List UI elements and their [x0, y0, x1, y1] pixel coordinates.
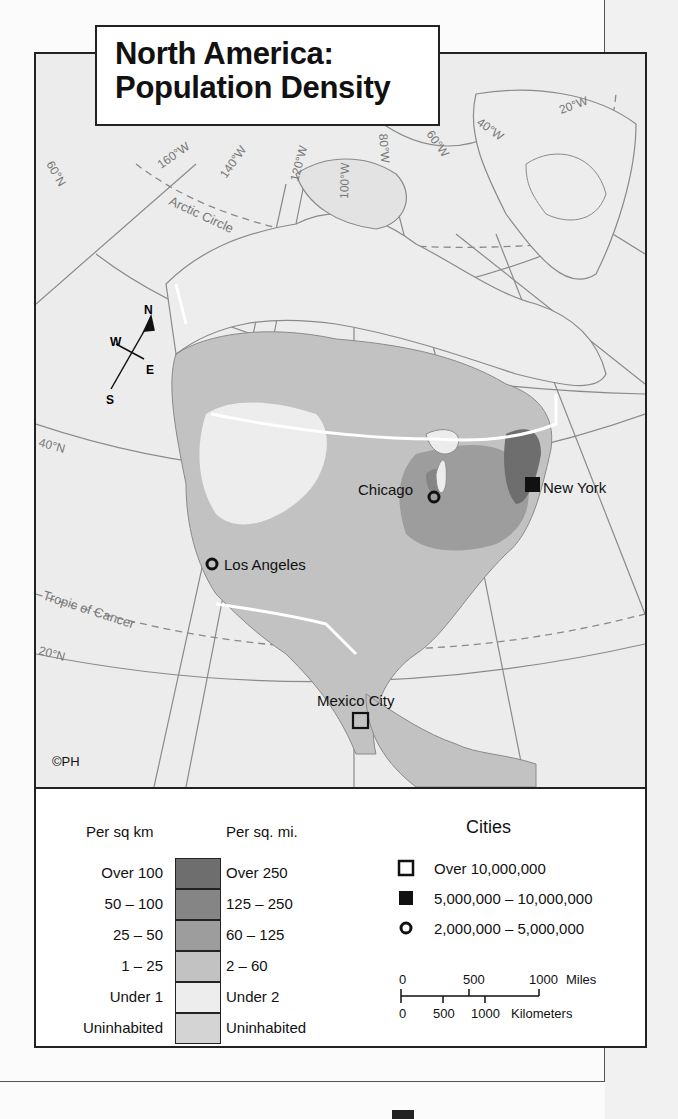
map-graphic: N W E S 60°N 40°N 20°N 160°W 140°W 120°W…	[36, 54, 645, 787]
legend-km-0: Over 100	[101, 864, 163, 881]
svg-text:60°N: 60°N	[43, 159, 69, 189]
svg-text:20°N: 20°N	[37, 643, 67, 663]
scale-miles-0: 0	[399, 972, 406, 987]
scale-miles-500: 500	[463, 972, 485, 987]
swatch-25-50	[175, 920, 221, 951]
svg-text:Tropic of Cancer: Tropic of Cancer	[41, 588, 137, 632]
svg-text:Arctic Circle: Arctic Circle	[167, 193, 236, 236]
scale-km-1000: 1000	[471, 1006, 500, 1021]
swatch-under-1	[175, 982, 221, 1013]
swatch-uninhabited	[175, 1013, 221, 1044]
scale-miles-1000: 1000	[529, 972, 558, 987]
scale-km-unit: Kilometers	[511, 1006, 572, 1021]
cities-legend-title: Cities	[466, 817, 511, 838]
legend-header-km: Per sq km	[86, 823, 154, 840]
legend-km-1: 50 – 100	[105, 895, 163, 912]
swatch-over-100	[175, 858, 221, 889]
swatch-50-100	[175, 889, 221, 920]
scale-bar	[399, 988, 544, 1004]
cities-legend-0: Over 10,000,000	[434, 860, 546, 877]
legend-mi-1: 125 – 250	[226, 895, 293, 912]
page-number-fragment	[392, 1110, 414, 1119]
svg-text:100°W: 100°W	[337, 162, 352, 199]
legend-mi-2: 60 – 125	[226, 926, 284, 943]
scale-km-0: 0	[399, 1006, 406, 1021]
cities-legend-2: 2,000,000 – 5,000,000	[434, 920, 584, 937]
copyright: ©PH	[52, 754, 80, 769]
title-line-1: North America:	[115, 37, 438, 71]
compass-w: W	[110, 335, 122, 349]
city-marker-new-york	[525, 477, 540, 492]
legend-km-4: Under 1	[110, 988, 163, 1005]
compass-e: E	[146, 363, 154, 377]
city-label-los-angeles: Los Angeles	[224, 556, 306, 573]
legend-mi-0: Over 250	[226, 864, 288, 881]
cities-legend-1: 5,000,000 – 10,000,000	[434, 890, 592, 907]
svg-text:140°W: 140°W	[217, 143, 250, 181]
legend: Per sq km Per sq. mi. Over 100 50 – 100 …	[36, 789, 645, 1046]
legend-header-mi: Per sq. mi.	[226, 823, 298, 840]
legend-mi-4: Under 2	[226, 988, 279, 1005]
svg-text:40°N: 40°N	[37, 435, 67, 455]
open-square-icon	[397, 859, 415, 877]
legend-mi-5: Uninhabited	[226, 1019, 306, 1036]
compass-s: S	[106, 393, 114, 407]
title-line-2: Population Density	[115, 71, 438, 105]
map-frame: N W E S 60°N 40°N 20°N 160°W 140°W 120°W…	[34, 52, 647, 1048]
map-area: N W E S 60°N 40°N 20°N 160°W 140°W 120°W…	[36, 54, 645, 789]
legend-mi-3: 2 – 60	[226, 957, 268, 974]
map-title: North America: Population Density	[95, 25, 440, 126]
legend-km-2: 25 – 50	[113, 926, 163, 943]
legend-km-5: Uninhabited	[83, 1019, 163, 1036]
scale-miles-unit: Miles	[566, 972, 596, 987]
compass-n: N	[144, 303, 153, 317]
swatch-1-25	[175, 951, 221, 982]
compass-rose	[111, 316, 154, 389]
city-label-mexico-city: Mexico City	[317, 692, 395, 709]
page-rule-horizontal	[0, 1081, 605, 1082]
legend-km-3: 1 – 25	[121, 957, 163, 974]
filled-square-icon	[397, 889, 415, 907]
city-label-chicago: Chicago	[358, 481, 413, 498]
svg-text:80°W: 80°W	[376, 133, 393, 164]
city-label-new-york: New York	[543, 479, 606, 496]
svg-text:160°W: 160°W	[155, 139, 193, 172]
circle-icon	[397, 919, 415, 937]
scale-km-500: 500	[433, 1006, 455, 1021]
